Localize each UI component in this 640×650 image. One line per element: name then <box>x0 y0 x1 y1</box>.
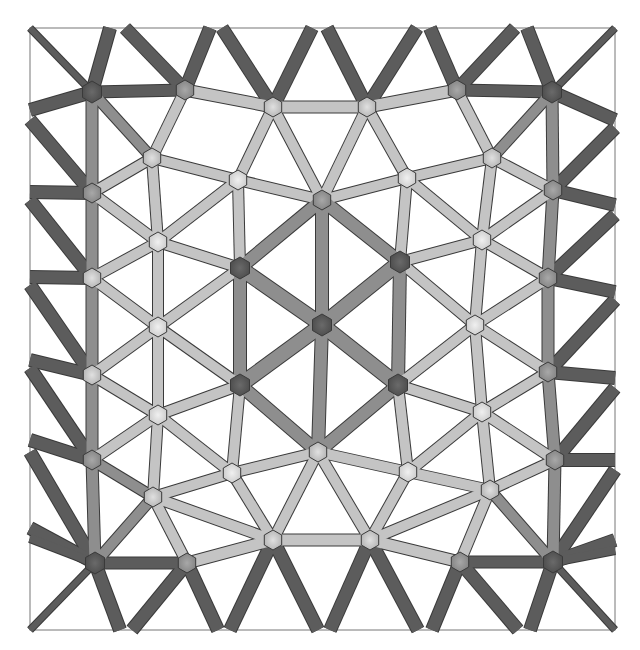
truss-member <box>92 460 95 563</box>
truss-node <box>309 442 326 462</box>
truss-member <box>432 562 460 630</box>
truss-node <box>391 251 410 273</box>
truss-member <box>548 190 553 278</box>
truss-member <box>552 92 553 190</box>
truss-member <box>548 372 615 378</box>
truss-node <box>83 450 100 470</box>
truss-node <box>223 463 240 483</box>
truss-member <box>548 278 615 292</box>
truss-member <box>430 28 457 90</box>
truss-member <box>475 240 482 325</box>
truss-member <box>475 325 548 372</box>
truss-member <box>318 325 322 452</box>
truss-member <box>490 490 553 562</box>
truss-node <box>83 81 102 103</box>
truss-node <box>399 462 416 482</box>
truss-node <box>539 362 556 382</box>
truss-member <box>490 460 555 490</box>
truss-member <box>553 190 615 205</box>
truss-member <box>330 540 370 630</box>
truss-member <box>92 90 185 92</box>
truss-member <box>482 240 548 278</box>
truss-member <box>153 473 232 497</box>
truss-member <box>475 325 482 412</box>
truss-member <box>408 472 490 490</box>
truss-node <box>86 552 105 574</box>
truss-member <box>185 28 210 90</box>
truss-member <box>555 388 615 460</box>
truss-node <box>264 530 281 550</box>
truss-node <box>483 148 500 168</box>
truss-member <box>92 92 152 158</box>
truss-member <box>327 28 367 107</box>
truss-member <box>95 563 120 630</box>
truss-node <box>176 80 193 100</box>
truss-node <box>83 183 100 203</box>
truss-node <box>231 257 250 279</box>
truss-member <box>398 385 482 412</box>
truss-member <box>30 277 92 278</box>
truss-node <box>448 80 465 100</box>
truss-node <box>389 374 408 396</box>
truss-member <box>553 460 555 562</box>
truss-mesh-figure <box>0 0 640 650</box>
truss-member <box>398 325 475 385</box>
truss-member <box>240 325 322 385</box>
truss-member <box>153 415 158 497</box>
truss-member <box>460 562 518 630</box>
truss-member <box>318 385 398 452</box>
truss-node <box>83 268 100 288</box>
truss-member <box>152 158 158 242</box>
truss-member <box>400 178 407 262</box>
truss-member <box>30 200 92 278</box>
truss-member <box>238 180 240 268</box>
truss-node <box>481 480 498 500</box>
truss-member <box>457 90 492 158</box>
truss-member <box>408 412 482 472</box>
truss-node <box>149 405 166 425</box>
truss-member <box>548 372 555 460</box>
truss-member <box>240 385 318 452</box>
truss-node <box>143 148 160 168</box>
truss-member <box>30 192 92 193</box>
truss-member <box>552 28 615 92</box>
truss-node <box>358 97 375 117</box>
truss-node <box>539 268 556 288</box>
truss-member <box>398 385 408 472</box>
truss-member <box>92 193 158 242</box>
truss-member <box>548 215 615 278</box>
truss-member <box>158 180 238 242</box>
truss-node <box>231 374 250 396</box>
truss-member <box>457 90 552 92</box>
truss-node <box>229 170 246 190</box>
truss-member <box>553 128 615 190</box>
truss-member <box>322 200 400 262</box>
truss-member <box>398 262 400 385</box>
truss-member <box>407 178 482 240</box>
truss-member <box>553 562 615 630</box>
truss-node <box>398 168 415 188</box>
truss-member <box>238 107 273 180</box>
truss-member <box>158 415 232 473</box>
truss-node <box>466 315 483 335</box>
truss-node <box>361 530 378 550</box>
truss-member <box>475 278 548 325</box>
truss-node <box>149 317 166 337</box>
truss-member <box>240 268 322 325</box>
truss-member <box>132 563 187 630</box>
truss-member <box>152 90 185 158</box>
truss-node <box>313 190 330 210</box>
truss-member <box>400 262 475 325</box>
truss-member <box>95 497 153 563</box>
truss-member <box>530 562 553 630</box>
truss-member <box>158 242 240 268</box>
truss-node <box>543 81 562 103</box>
truss-node <box>473 230 490 250</box>
truss-member <box>92 278 158 327</box>
truss-node <box>144 487 161 507</box>
truss-node <box>546 450 563 470</box>
truss-member <box>30 563 95 630</box>
truss-member <box>367 107 407 178</box>
truss-member <box>92 460 153 497</box>
truss-member <box>187 563 218 630</box>
